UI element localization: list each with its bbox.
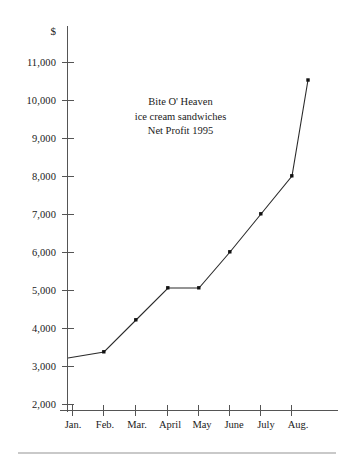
y-tick-label: 2,000 (8, 399, 56, 410)
data-point-marker (197, 286, 200, 289)
x-tick-label: Aug. (288, 419, 309, 431)
chart-title-line-1: Bite O' Heaven (103, 95, 258, 110)
x-tick-label: Mar. (127, 419, 147, 431)
y-tick-label: 10,000 (8, 95, 56, 106)
plot-area (0, 0, 354, 466)
x-tick-label: June (224, 419, 243, 431)
bottom-divider (18, 452, 336, 454)
y-tick-label: 4,000 (8, 323, 56, 334)
y-tick-label: 5,000 (8, 285, 56, 296)
data-point-marker (259, 212, 262, 215)
x-tick-label: July (257, 419, 275, 431)
y-tick-label: 11,000 (8, 57, 56, 68)
x-tick-label: Jan. (65, 419, 82, 431)
x-tick-label: April (159, 419, 181, 431)
y-tick-label: 8,000 (8, 171, 56, 182)
data-point-marker (306, 78, 309, 81)
data-point-marker (290, 174, 293, 177)
y-tick-label: 3,000 (8, 361, 56, 372)
data-point-marker (228, 250, 231, 253)
data-point-marker (134, 318, 137, 321)
data-point-marker (166, 286, 169, 289)
data-point-marker (102, 350, 105, 353)
x-tick-label: May (192, 419, 211, 431)
y-tick-label: 6,000 (8, 247, 56, 258)
y-tick-label: 9,000 (8, 133, 56, 144)
line-chart-figure: $ (0, 0, 354, 466)
chart-title: Bite O' Heaven ice cream sandwiches Net … (103, 95, 258, 139)
x-tick-label: Feb. (96, 419, 114, 431)
chart-title-line-3: Net Profit 1995 (103, 124, 258, 139)
chart-title-line-2: ice cream sandwiches (103, 110, 258, 125)
y-tick-label: 7,000 (8, 209, 56, 220)
